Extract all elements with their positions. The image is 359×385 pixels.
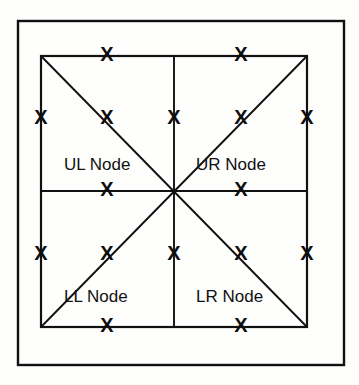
x-marker-ur-interior: X xyxy=(234,106,248,128)
x-marker-ll-interior: X xyxy=(100,242,114,264)
x-marker-top-ul: X xyxy=(100,43,114,65)
x-marker-left-lower: X xyxy=(34,242,48,264)
x-marker-right-lower: X xyxy=(300,242,314,264)
x-marker-mid-right: X xyxy=(234,178,248,200)
x-marker-top-ur: X xyxy=(234,43,248,65)
x-marker-bottom-ll: X xyxy=(100,314,114,336)
quadrant-label-lr: LR Node xyxy=(196,287,263,306)
x-marker-left-upper: X xyxy=(34,106,48,128)
x-marker-mid-bottom-center: X xyxy=(167,242,181,264)
x-marker-mid-top-center: X xyxy=(167,106,181,128)
x-marker-mid-left: X xyxy=(100,178,114,200)
x-marker-lr-interior: X xyxy=(234,242,248,264)
x-marker-bottom-lr: X xyxy=(234,314,248,336)
quadrant-label-ll: LL Node xyxy=(64,287,128,306)
quadrant-label-ur: UR Node xyxy=(196,155,266,174)
quad-node-diagram: UL NodeUR NodeLL NodeLR Node XXXXXXXXXXX… xyxy=(0,0,359,385)
quadrant-label-ul: UL Node xyxy=(64,155,130,174)
quad-node-figure: UL NodeUR NodeLL NodeLR Node XXXXXXXXXXX… xyxy=(0,0,359,385)
x-marker-ul-interior: X xyxy=(100,106,114,128)
outer-border xyxy=(18,21,344,365)
x-marker-right-upper: X xyxy=(300,106,314,128)
